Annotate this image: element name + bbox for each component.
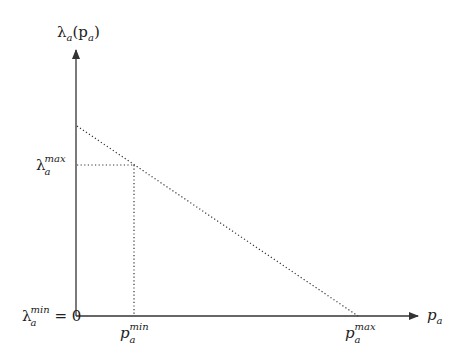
diagram-canvas: λa(pa) pa λamax λamin = 0 pamin pamax: [0, 0, 467, 362]
x-axis-label: pa: [427, 306, 443, 326]
x-tick-p-min: pamin: [120, 321, 149, 345]
y-axis-label: λa(pa): [57, 23, 100, 43]
demand-line: [77, 126, 358, 316]
diagram: λa(pa) pa λamax λamin = 0 pamin pamax: [0, 0, 467, 362]
x-tick-p-max: pamax: [345, 321, 376, 345]
y-tick-lambda-max: λamax: [36, 153, 66, 177]
y-tick-lambda-min: λamin = 0: [22, 304, 81, 328]
